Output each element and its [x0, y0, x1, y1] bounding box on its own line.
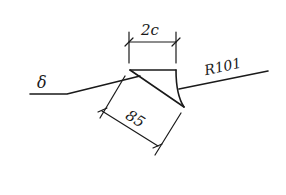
weld-drawing: δ 2c 85 R101 [0, 0, 286, 195]
label-2c: 2c [140, 21, 160, 39]
label-r101: R101 [202, 55, 243, 79]
diagram-canvas: δ 2c 85 R101 [0, 0, 286, 195]
weld-triangle-icon [130, 70, 184, 107]
delta-label: δ [37, 73, 47, 92]
label-85: 85 [122, 106, 148, 131]
